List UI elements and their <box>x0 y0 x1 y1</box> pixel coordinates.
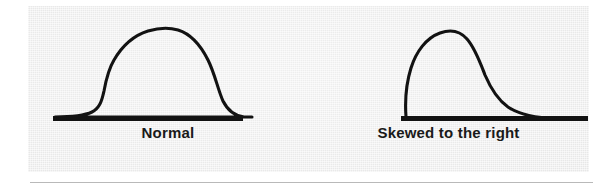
caption-normal: Normal <box>28 124 308 141</box>
distribution-plot-normal: Normal <box>28 6 308 172</box>
skewed-curve-path <box>406 31 574 119</box>
figure-panel: Normal Skewed to the right <box>28 6 589 172</box>
distribution-plot-skewed: Skewed to the right <box>308 6 589 172</box>
normal-curve-graphic <box>28 6 308 172</box>
bottom-divider-rule <box>30 182 593 183</box>
normal-curve-path <box>55 28 252 117</box>
skewed-curve-graphic <box>308 6 589 172</box>
caption-skewed: Skewed to the right <box>308 124 589 141</box>
